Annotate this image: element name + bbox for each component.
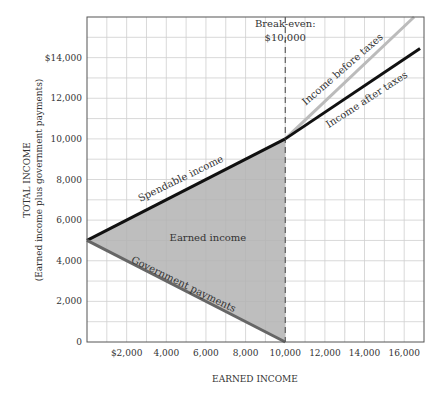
x-axis-ticks: $2,0004,0006,0008,00010,00012,00014,0001…: [111, 348, 420, 358]
y-axis-ticks: 02,0004,0006,0008,00010,00012,000$14,000: [45, 53, 82, 347]
y-tick-label: 10,000: [51, 134, 83, 144]
x-tick-label: 14,000: [349, 348, 381, 358]
x-axis-label: EARNED INCOME: [212, 374, 298, 384]
y-tick-label: 12,000: [51, 93, 83, 103]
x-tick-label: 16,000: [388, 348, 420, 358]
annotation-label: Earned income: [170, 232, 247, 243]
y-tick-label: 0: [76, 337, 82, 347]
y-tick-label: $14,000: [45, 53, 82, 63]
x-tick-label: $2,000: [111, 348, 143, 358]
x-tick-label: 12,000: [309, 348, 341, 358]
x-tick-label: 6,000: [193, 348, 219, 358]
x-tick-label: 10,000: [269, 348, 301, 358]
y-tick-label: 8,000: [56, 175, 82, 185]
y-tick-label: 2,000: [56, 296, 82, 306]
y-tick-label: 6,000: [56, 215, 82, 225]
annotation-label: Break-even:: [255, 18, 316, 29]
break-even-income-chart: $2,0004,0006,0008,00010,00012,00014,0001…: [0, 0, 444, 394]
y-tick-label: 4,000: [56, 256, 82, 266]
y-axis-label: TOTAL INCOME: [22, 142, 32, 218]
annotation-label: $10,000: [265, 32, 306, 43]
y-axis-sublabel: (Earned income plus government payments): [34, 79, 44, 282]
x-tick-label: 8,000: [233, 348, 259, 358]
x-tick-label: 4,000: [153, 348, 179, 358]
